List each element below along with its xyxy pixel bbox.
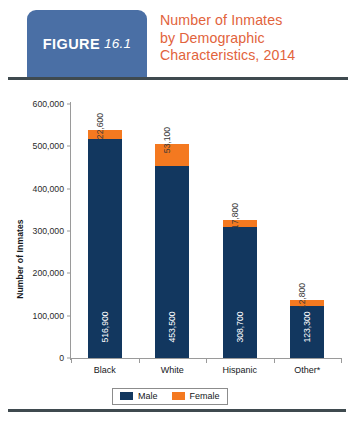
x-axis-tick-mark xyxy=(206,358,207,363)
x-axis-tick-mark xyxy=(71,358,72,363)
bar-value-label-male: 516,900 xyxy=(100,311,110,342)
bar-value-label-male: 308,700 xyxy=(235,311,245,342)
chart-plot-area: Number of Inmates 0100,000200,000300,000… xyxy=(0,86,355,386)
legend-label-female: Female xyxy=(190,391,220,401)
figure-container: FIGURE 16.1 Number of Inmates by Demogra… xyxy=(0,0,355,421)
figure-badge-number: 16.1 xyxy=(104,36,131,51)
x-axis-tick-mark xyxy=(274,358,275,363)
y-axis-tick-label: 100,000 xyxy=(33,311,71,321)
bar-group: 308,70017,800 xyxy=(223,220,257,358)
bars-container: 0100,000200,000300,000400,000500,000600,… xyxy=(71,104,341,358)
y-axis-tick-label: 300,000 xyxy=(33,226,71,236)
x-axis-label: White xyxy=(161,365,184,375)
bar-value-label-female: 17,800 xyxy=(230,203,240,229)
x-axis-tick-mark xyxy=(139,358,140,363)
legend-swatch-male xyxy=(120,392,133,400)
figure-number-badge: FIGURE 16.1 xyxy=(27,10,147,77)
chart-legend: Male Female xyxy=(112,388,228,405)
bar-group: 123,30012,800 xyxy=(290,300,324,358)
x-axis-label: Other* xyxy=(294,365,320,375)
x-axis-label: Hispanic xyxy=(222,365,257,375)
y-axis-tick-mark xyxy=(67,231,71,232)
y-axis-tick-label: 600,000 xyxy=(33,99,71,109)
bar-segment-male: 516,900 xyxy=(88,139,122,358)
bar-segment-male: 123,300 xyxy=(290,306,324,358)
y-axis-tick-label: 500,000 xyxy=(33,141,71,151)
y-axis-tick-mark xyxy=(67,146,71,147)
bar-value-label-male: 123,300 xyxy=(302,311,312,342)
bar-value-label-male: 453,500 xyxy=(167,311,177,342)
figure-title-line-1: Number of Inmates xyxy=(160,12,350,30)
bar-segment-female xyxy=(290,300,324,305)
bar-group: 516,90022,600 xyxy=(88,130,122,358)
bar-segment-male: 308,700 xyxy=(223,227,257,358)
legend-item-female: Female xyxy=(172,391,220,401)
legend-item-male: Male xyxy=(120,391,158,401)
bar-segment-female xyxy=(155,144,189,166)
header-divider xyxy=(8,77,348,80)
x-axis-label: Black xyxy=(94,365,116,375)
figure-title: Number of Inmates by Demographic Charact… xyxy=(160,12,350,65)
y-axis-tick-label: 200,000 xyxy=(33,268,71,278)
legend-label-male: Male xyxy=(138,391,158,401)
y-axis-title: Number of Inmates xyxy=(15,194,25,324)
bar-value-label-female: 12,800 xyxy=(297,283,307,309)
figure-title-line-2: by Demographic xyxy=(160,30,350,48)
x-axis-tick-mark xyxy=(341,358,342,363)
figure-header: FIGURE 16.1 Number of Inmates by Demogra… xyxy=(0,0,355,78)
bar-value-label-female: 53,100 xyxy=(162,126,172,152)
bar-segment-male: 453,500 xyxy=(155,166,189,358)
y-axis-tick-mark xyxy=(67,188,71,189)
bar-value-label-female: 22,600 xyxy=(95,112,105,138)
y-axis-tick-mark xyxy=(67,273,71,274)
footer-divider xyxy=(8,409,346,412)
figure-title-line-3: Characteristics, 2014 xyxy=(160,47,350,65)
y-axis-tick-mark xyxy=(67,315,71,316)
figure-badge-word: FIGURE xyxy=(43,36,100,52)
y-axis-tick-label: 400,000 xyxy=(33,184,71,194)
y-axis-tick-mark xyxy=(67,104,71,105)
bar-group: 453,50053,100 xyxy=(155,144,189,358)
legend-swatch-female xyxy=(172,392,185,400)
